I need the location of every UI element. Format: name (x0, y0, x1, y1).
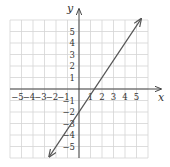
y-tick-label: 2 (70, 61, 75, 71)
y-tick-label: 3 (70, 50, 75, 60)
y-tick-label: −5 (62, 142, 75, 152)
y-tick-label: 4 (70, 38, 75, 48)
coordinate-plane: −5−4−3−2−112345−5−4−3−2−112345 x y (0, 0, 170, 167)
y-tick-label: −1 (62, 96, 75, 106)
y-axis-label: y (66, 2, 74, 15)
x-axis-label: x (158, 91, 165, 104)
y-tick-label: −2 (62, 107, 75, 117)
x-tick-label: 4 (122, 92, 127, 102)
x-tick-label: 3 (111, 92, 116, 102)
x-tick-label: 2 (99, 92, 104, 102)
line-series (49, 19, 141, 157)
data-series (49, 19, 141, 157)
x-tick-label: 5 (134, 92, 139, 102)
y-tick-label: 1 (70, 73, 75, 83)
y-tick-label: 5 (70, 27, 75, 37)
